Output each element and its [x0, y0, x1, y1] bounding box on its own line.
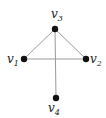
edge-v3-v4 [55, 29, 56, 98]
labels: v1v2v3v4 [7, 7, 102, 117]
label-v1: v1 [7, 52, 19, 68]
edges [24, 29, 86, 98]
edge-v3-v2 [55, 29, 86, 59]
node-v1 [21, 56, 27, 62]
node-v2 [83, 56, 89, 62]
label-v2: v2 [90, 52, 102, 68]
edge-v1-v3 [24, 29, 55, 59]
graph-diagram: v1v2v3v4 [0, 0, 106, 118]
label-v3: v3 [51, 7, 63, 23]
label-v4: v4 [48, 101, 60, 117]
node-v3 [52, 26, 58, 32]
